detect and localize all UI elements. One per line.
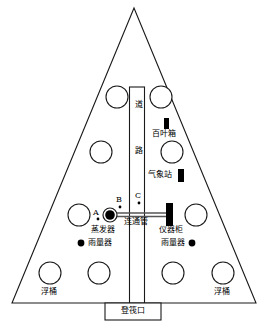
evaporator-marker [105, 210, 115, 220]
connecting-pipe-label: 连通管 [124, 218, 148, 226]
rain-gauge-left-marker [78, 240, 85, 247]
stevenson-screen-label: 百叶箱 [152, 130, 176, 138]
float-buoy [90, 141, 112, 163]
instrument-cabinet-label: 仪器柜 [159, 226, 183, 234]
point-a-dot [97, 218, 100, 221]
weather-station-label: 气象站 [148, 171, 172, 179]
point-c-label: C [135, 192, 141, 200]
rain-gauge-right-label: 雨量器 [161, 239, 185, 247]
raft-layout-diagram: 道 路 百叶箱 气象站 A B C 蒸发器 连通管 仪器柜 雨量器 雨量器 浮桶… [0, 0, 269, 325]
float-buoy [185, 204, 207, 226]
float-buoy [106, 86, 128, 108]
road-label-top: 道 [133, 100, 141, 109]
float-buoy [88, 262, 110, 284]
float-buoy-left-label: 浮桶 [41, 288, 57, 296]
diagram-canvas [0, 0, 269, 325]
stevenson-screen-marker [164, 118, 169, 129]
point-a-label: A [93, 209, 99, 217]
float-buoy [212, 262, 234, 284]
point-c-dot [138, 202, 141, 205]
rain-gauge-right-marker [189, 240, 196, 247]
instrument-cabinet-marker [166, 203, 173, 226]
point-b-label: B [116, 196, 122, 204]
float-buoy [150, 86, 172, 108]
float-buoy-right-label: 浮桶 [214, 288, 230, 296]
evaporator-label: 蒸发器 [91, 226, 115, 234]
rain-gauge-left-label: 雨量器 [88, 239, 112, 247]
weather-station-marker [178, 169, 184, 182]
float-buoy [39, 262, 61, 284]
float-buoy [162, 262, 184, 284]
float-buoy [68, 204, 90, 226]
float-buoy [161, 141, 183, 163]
boarding-entrance-label: 登筏口 [105, 307, 161, 315]
point-b-dot [119, 206, 122, 209]
road-label-bottom: 路 [133, 146, 141, 155]
